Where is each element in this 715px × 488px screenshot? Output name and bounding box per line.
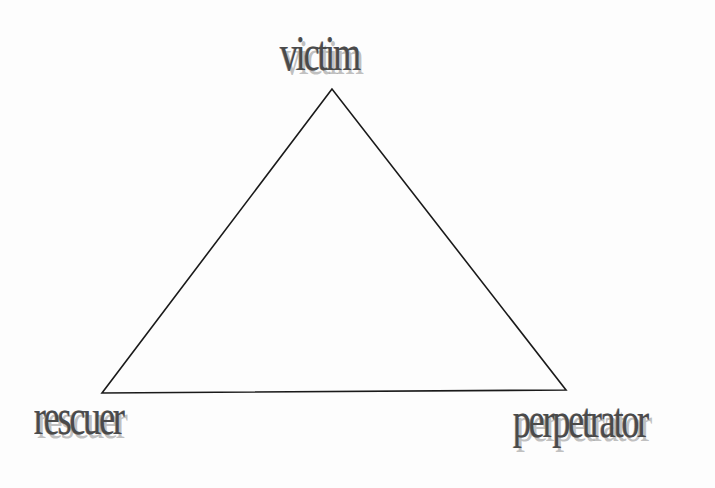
node-label-rescuer: rescuer	[34, 392, 123, 442]
drama-triangle-diagram: victim rescuer perpetrator	[0, 0, 715, 488]
node-label-perpetrator: perpetrator	[513, 395, 647, 445]
node-label-victim: victim	[280, 28, 359, 78]
